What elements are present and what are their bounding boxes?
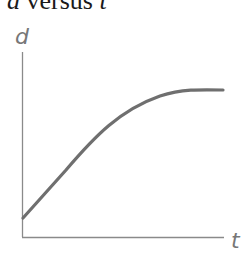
data-curve [23, 90, 223, 218]
chart-plot: d t [0, 0, 248, 268]
x-axis-label: t [231, 228, 241, 253]
y-axis-label: d [15, 24, 30, 49]
